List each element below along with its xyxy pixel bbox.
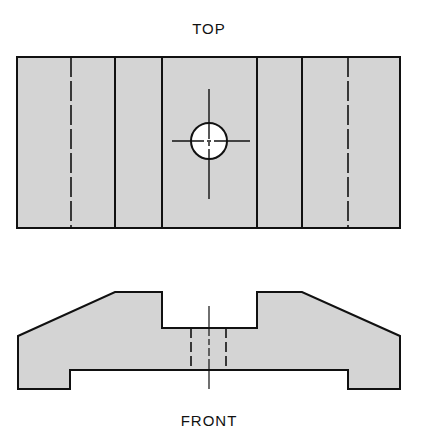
front-view bbox=[18, 292, 400, 389]
top-view bbox=[17, 57, 400, 228]
top-view-label: TOP bbox=[149, 20, 269, 37]
drawing-canvas bbox=[0, 0, 424, 445]
front-view-label: FRONT bbox=[149, 412, 269, 429]
